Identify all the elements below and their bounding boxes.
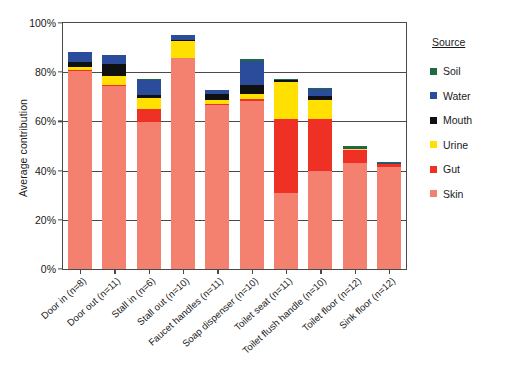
bar-segment-skin[interactable] [205, 105, 229, 269]
legend-title: Source [430, 36, 508, 48]
bar-segment-mouth[interactable] [308, 96, 332, 100]
bar-slot [63, 23, 97, 269]
legend-items: SoilWaterMouthUrineGutSkin [430, 59, 508, 206]
bar-slot [235, 23, 269, 269]
bar-segment-soil[interactable] [377, 162, 401, 163]
bar-segment-soil[interactable] [274, 79, 298, 80]
legend-swatch-icon [430, 68, 437, 75]
legend-label: Urine [443, 139, 468, 151]
legend: Source SoilWaterMouthUrineGutSkin [430, 36, 508, 206]
bar-segment-soil[interactable] [240, 59, 264, 60]
legend-item-gut[interactable]: Gut [430, 157, 508, 182]
bar-segment-skin[interactable] [377, 167, 401, 269]
x-tick-mark [217, 269, 218, 274]
bar-segment-urine[interactable] [137, 98, 161, 109]
bar-segment-water[interactable] [240, 61, 264, 86]
legend-label: Skin [443, 188, 463, 200]
bar-segment-soil[interactable] [137, 79, 161, 80]
bar-segment-urine[interactable] [205, 100, 229, 104]
legend-item-mouth[interactable]: Mouth [430, 108, 508, 133]
legend-label: Water [443, 90, 471, 102]
bar-segment-gut[interactable] [377, 164, 401, 166]
bar-segment-gut[interactable] [308, 119, 332, 171]
bar-slot [166, 23, 200, 269]
bar-segment-mouth[interactable] [240, 85, 264, 94]
plot-inner: 0%20%40%60%80%100% [63, 23, 406, 269]
legend-swatch-icon [430, 141, 437, 148]
bar-slot [372, 23, 406, 269]
x-tick-mark [80, 269, 81, 274]
bar-segment-skin[interactable] [274, 193, 298, 269]
bar-slot [200, 23, 234, 269]
bar-segment-skin[interactable] [68, 71, 92, 269]
legend-label: Mouth [443, 114, 472, 126]
bar-segment-mouth[interactable] [68, 62, 92, 67]
legend-label: Gut [443, 163, 460, 175]
bar-segment-skin[interactable] [343, 163, 367, 269]
bar-segment-urine[interactable] [68, 67, 92, 69]
legend-label: Soil [443, 65, 461, 77]
bar-slot [132, 23, 166, 269]
x-tick-mark [114, 269, 115, 274]
bar-segment-skin[interactable] [308, 171, 332, 269]
bar-segment-water[interactable] [205, 90, 229, 93]
x-tick-mark [149, 269, 150, 274]
y-tick-label: 0% [41, 263, 56, 275]
bar-segment-mouth[interactable] [274, 80, 298, 82]
bar-segment-urine[interactable] [102, 76, 126, 85]
x-tick-mark [320, 269, 321, 274]
bar-segment-skin[interactable] [240, 101, 264, 269]
plot-area: 0%20%40%60%80%100% [62, 22, 407, 270]
bar-segment-gut[interactable] [343, 150, 367, 163]
bar-segment-gut[interactable] [137, 109, 161, 122]
x-tick-mark [183, 269, 184, 274]
bar-segment-skin[interactable] [137, 122, 161, 269]
bar-segment-urine[interactable] [240, 94, 264, 99]
bar-segment-gut[interactable] [102, 85, 126, 86]
bar-segment-mouth[interactable] [102, 64, 126, 76]
bar-segment-water[interactable] [137, 80, 161, 96]
y-axis-title: Average contribution [17, 63, 29, 233]
bar-segment-gut[interactable] [274, 119, 298, 193]
legend-item-water[interactable]: Water [430, 84, 508, 109]
stacked-bar-chart-figure: Average contribution 0%20%40%60%80%100% … [0, 0, 511, 374]
legend-swatch-icon [430, 190, 437, 197]
legend-item-soil[interactable]: Soil [430, 59, 508, 84]
y-tick-label: 80% [35, 66, 56, 78]
bar-segment-urine[interactable] [274, 82, 298, 119]
bar-segment-skin[interactable] [171, 58, 195, 269]
x-tick-mark [389, 269, 390, 274]
bar-segment-gut[interactable] [68, 70, 92, 71]
legend-item-urine[interactable]: Urine [430, 133, 508, 158]
bar-segment-water[interactable] [308, 89, 332, 96]
x-tick-mark [355, 269, 356, 274]
bar-segment-water[interactable] [171, 35, 195, 40]
bar-slot [303, 23, 337, 269]
y-tick-label: 100% [29, 17, 56, 29]
bar-segment-mouth[interactable] [137, 95, 161, 97]
legend-swatch-icon [430, 166, 437, 173]
legend-swatch-icon [430, 92, 437, 99]
bar-segment-soil[interactable] [308, 88, 332, 89]
x-tick-mark [252, 269, 253, 274]
legend-swatch-icon [430, 117, 437, 124]
bar-segment-water[interactable] [343, 148, 367, 149]
bar-segment-water[interactable] [102, 55, 126, 64]
bar-segment-gut[interactable] [240, 99, 264, 101]
bar-segment-soil[interactable] [343, 146, 367, 148]
bar-segment-water[interactable] [68, 52, 92, 63]
bar-segment-skin[interactable] [102, 86, 126, 269]
y-tick-label: 20% [35, 214, 56, 226]
x-tick-mark [286, 269, 287, 274]
bar-slot [97, 23, 131, 269]
y-tick-label: 40% [35, 165, 56, 177]
legend-item-skin[interactable]: Skin [430, 182, 508, 207]
bar-slot [269, 23, 303, 269]
bar-segment-urine[interactable] [308, 100, 332, 119]
bar-slot [337, 23, 371, 269]
bar-segment-urine[interactable] [171, 41, 195, 58]
bar-segment-mouth[interactable] [205, 94, 229, 100]
y-tick-label: 60% [35, 115, 56, 127]
